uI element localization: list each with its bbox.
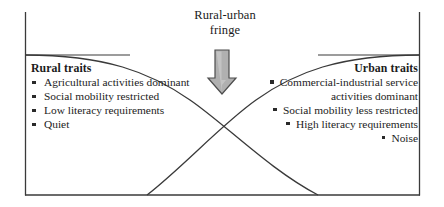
rural-traits-panel: Rural traits Agricultural activities dom… <box>31 61 191 132</box>
rural-traits-heading: Rural traits <box>31 61 191 75</box>
square-bullet-icon <box>273 108 277 112</box>
diagram-title-line-2: fringe <box>160 23 290 38</box>
list-item: High literacy requirements <box>252 118 418 132</box>
urban-trait-text: Noise <box>391 132 418 144</box>
list-item: Commercial-industrial service activities… <box>252 76 418 103</box>
list-item: Low literacy requirements <box>31 104 191 118</box>
diagram-title: Rural-urban fringe <box>160 8 290 38</box>
square-bullet-icon <box>270 80 274 84</box>
square-bullet-icon <box>286 122 290 126</box>
square-bullet-icon <box>32 95 36 99</box>
list-item: Social mobility restricted <box>31 90 191 104</box>
square-bullet-icon <box>32 109 36 113</box>
list-item: Quiet <box>31 118 191 132</box>
diagram-title-line-1: Rural-urban <box>160 8 290 23</box>
urban-traits-list: Commercial-industrial service activities… <box>252 76 418 145</box>
urban-traits-heading: Urban traits <box>252 61 418 75</box>
list-item: Noise <box>252 132 418 146</box>
rural-trait-text: Quiet <box>44 118 69 130</box>
square-bullet-icon <box>382 136 386 140</box>
urban-traits-panel: Urban traits Commercial-industrial servi… <box>252 61 418 146</box>
urban-trait-text: Social mobility less restricted <box>283 104 418 116</box>
rural-trait-text: Social mobility restricted <box>44 90 159 102</box>
rural-trait-text: Agricultural activities dominant <box>44 76 190 88</box>
square-bullet-icon <box>32 81 36 85</box>
rural-trait-text: Low literacy requirements <box>44 104 164 116</box>
list-item: Agricultural activities dominant <box>31 76 191 90</box>
square-bullet-icon <box>32 123 36 127</box>
list-item: Social mobility less restricted <box>252 104 418 118</box>
diagram-canvas: Rural-urban fringe Rural traits Agricult… <box>0 0 444 207</box>
down-arrow-icon <box>208 50 236 94</box>
rural-traits-list: Agricultural activities dominant Social … <box>31 76 191 132</box>
urban-trait-text: Commercial-industrial service activities… <box>280 76 418 102</box>
urban-trait-text: High literacy requirements <box>296 118 418 130</box>
